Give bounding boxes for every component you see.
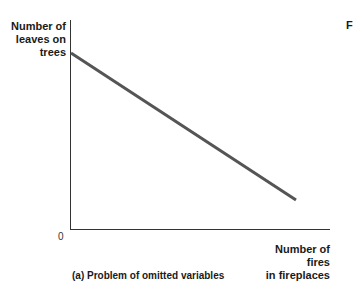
y-axis-label-line: Number of (11, 20, 66, 33)
x-axis-label-line: Number of fires (250, 243, 330, 269)
figure-caption: (a) Problem of omitted variables (72, 270, 224, 281)
y-axis-label-line: leaves on (11, 33, 66, 46)
trend-line (71, 53, 296, 200)
x-axis-label-line: in fireplaces (250, 269, 330, 282)
cropped-edge-text: F (346, 19, 353, 31)
y-axis-label: Number of leaves on trees (11, 20, 66, 59)
origin-label: 0 (58, 231, 64, 242)
y-axis-label-line: trees (11, 46, 66, 59)
x-axis-label: Number of fires in fireplaces (250, 243, 330, 282)
